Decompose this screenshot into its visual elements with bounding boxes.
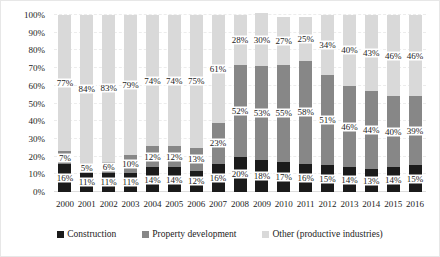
data-label-2006-other-productive-industries: 75%: [187, 77, 206, 86]
data-label-2003-property-development: 10%: [121, 159, 140, 168]
legend-swatch-construction: [57, 231, 64, 238]
data-label-2015-construction: 14%: [384, 175, 403, 184]
x-tick-label-2001: 2001: [78, 198, 96, 210]
y-tick-label-20: 20%: [29, 152, 46, 162]
x-tick-label-2004: 2004: [143, 198, 161, 210]
y-tick-label-70: 70%: [29, 63, 46, 73]
data-label-2008-construction: 20%: [231, 170, 250, 179]
data-label-2000-other-productive-industries: 77%: [56, 79, 75, 88]
y-tick-label-40: 40%: [29, 116, 46, 126]
data-label-2005-other-productive-industries: 74%: [165, 76, 184, 85]
data-label-2002-construction: 11%: [100, 178, 118, 187]
data-label-2001-property-development: 5%: [80, 164, 94, 173]
data-label-2014-other-productive-industries: 43%: [362, 49, 381, 58]
data-label-2008-property-development: 52%: [231, 106, 250, 115]
data-label-2011-other-productive-industries: 25%: [296, 34, 315, 43]
data-label-2009-construction: 18%: [253, 172, 272, 181]
data-label-2015-other-productive-industries: 46%: [384, 51, 403, 60]
x-tick-label-2013: 2013: [340, 198, 358, 210]
x-tick-label-2016: 2016: [406, 198, 424, 210]
legend-item-other-productive-industries: Other (productive industries): [262, 229, 382, 240]
legend: ConstructionProperty developmentOther (p…: [1, 229, 439, 240]
data-label-2004-property-development: 12%: [143, 152, 162, 161]
data-label-2009-other-productive-industries: 30%: [253, 35, 272, 44]
data-label-2007-other-productive-industries: 61%: [209, 65, 228, 74]
y-tick-label-100: 100%: [24, 10, 45, 20]
x-tick-label-2008: 2008: [231, 198, 249, 210]
y-axis: 0%10%20%30%40%50%60%70%80%90%100%: [1, 15, 49, 192]
data-label-2008-other-productive-industries: 28%: [231, 35, 250, 44]
data-label-2003-other-productive-industries: 79%: [121, 80, 140, 89]
data-label-2013-construction: 14%: [340, 175, 359, 184]
data-label-2001-construction: 11%: [78, 178, 96, 187]
x-tick-label-2005: 2005: [165, 198, 183, 210]
x-tick-label-2012: 2012: [319, 198, 337, 210]
y-tick-label-60: 60%: [29, 81, 46, 91]
data-label-2011-construction: 16%: [296, 173, 315, 182]
data-label-2013-other-productive-industries: 40%: [340, 46, 359, 55]
data-label-2000-construction: 16%: [56, 173, 75, 182]
legend-label-other-productive-industries: Other (productive industries): [272, 229, 382, 240]
data-label-2015-property-development: 40%: [384, 127, 403, 136]
data-label-2011-property-development: 58%: [296, 108, 315, 117]
data-label-2014-construction: 13%: [362, 176, 381, 185]
x-tick-label-2000: 2000: [56, 198, 74, 210]
y-tick-label-10: 10%: [29, 169, 46, 179]
data-label-2007-property-development: 23%: [209, 139, 228, 148]
data-label-2003-construction: 11%: [121, 178, 139, 187]
x-tick-label-2002: 2002: [100, 198, 118, 210]
data-label-2005-property-development: 12%: [165, 152, 184, 161]
data-label-2014-property-development: 44%: [362, 126, 381, 135]
data-label-2006-property-development: 13%: [187, 155, 206, 164]
x-tick-label-2003: 2003: [122, 198, 140, 210]
x-tick-label-2015: 2015: [384, 198, 402, 210]
legend-item-property-development: Property development: [142, 229, 236, 240]
data-label-2007-construction: 16%: [209, 173, 228, 182]
data-label-2001-other-productive-industries: 84%: [78, 85, 97, 94]
x-axis: 2000200120022003200420052006200720082009…: [54, 198, 426, 212]
x-tick-label-2011: 2011: [297, 198, 315, 210]
y-tick-label-90: 90%: [29, 28, 46, 38]
data-label-2005-construction: 14%: [165, 175, 184, 184]
x-tick-label-2009: 2009: [253, 198, 271, 210]
data-label-2010-property-development: 55%: [275, 109, 294, 118]
data-label-2016-other-productive-industries: 46%: [406, 51, 425, 60]
data-label-2000-property-development: 7%: [58, 153, 72, 162]
x-tick-label-2010: 2010: [275, 198, 293, 210]
y-tick-label-80: 80%: [29, 45, 46, 55]
data-label-2004-construction: 14%: [143, 175, 162, 184]
data-label-2002-other-productive-industries: 83%: [99, 84, 118, 93]
legend-label-construction: Construction: [67, 229, 116, 240]
data-label-2010-construction: 17%: [275, 172, 294, 181]
data-label-2010-other-productive-industries: 27%: [275, 36, 294, 45]
y-tick-label-30: 30%: [29, 134, 46, 144]
data-label-2013-property-development: 46%: [340, 122, 359, 131]
x-tick-label-2006: 2006: [187, 198, 205, 210]
y-tick-label-50: 50%: [29, 99, 46, 109]
plot-area: 16%7%77%11%5%84%11%6%83%11%10%79%14%12%7…: [54, 15, 426, 192]
stacked-bar-chart: 16%7%77%11%5%84%11%6%83%11%10%79%14%12%7…: [0, 0, 440, 257]
data-label-2006-construction: 12%: [187, 177, 206, 186]
data-label-2012-property-development: 51%: [318, 116, 337, 125]
data-label-2009-property-development: 53%: [253, 109, 272, 118]
data-label-2016-property-development: 39%: [406, 126, 425, 135]
legend-item-construction: Construction: [57, 229, 116, 240]
data-label-2016-construction: 15%: [406, 174, 425, 183]
y-tick-label-0: 0%: [33, 187, 45, 197]
x-tick-label-2014: 2014: [362, 198, 380, 210]
data-label-2012-construction: 15%: [318, 174, 337, 183]
legend-swatch-property-development: [142, 231, 149, 238]
legend-label-property-development: Property development: [152, 229, 236, 240]
x-tick-label-2007: 2007: [209, 198, 227, 210]
data-label-2012-other-productive-industries: 34%: [318, 41, 337, 50]
legend-swatch-other-productive-industries: [262, 231, 269, 238]
data-label-2002-property-development: 6%: [102, 163, 116, 172]
data-label-2004-other-productive-industries: 74%: [143, 76, 162, 85]
